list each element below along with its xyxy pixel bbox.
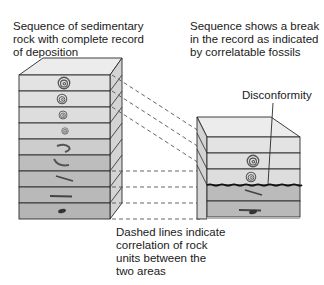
left-top-face xyxy=(19,58,122,75)
stratigraphy-diagram xyxy=(0,0,324,285)
flat-shell-icon xyxy=(50,196,72,197)
flat-shell-icon xyxy=(239,210,261,211)
correlation-lines xyxy=(112,75,202,219)
right-rock-column xyxy=(197,103,302,219)
left-rock-column xyxy=(19,58,122,219)
right-top-face xyxy=(197,117,300,137)
